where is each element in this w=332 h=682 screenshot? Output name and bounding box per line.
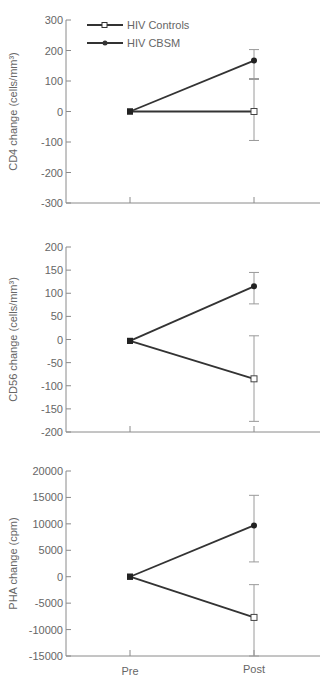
y-tick-label: 0 xyxy=(57,106,63,118)
y-tick-label: 300 xyxy=(45,14,63,26)
y-tick-label: -300 xyxy=(41,197,63,209)
y-tick-label: 150 xyxy=(45,264,63,276)
y-tick-label: 15000 xyxy=(32,491,63,503)
legend-item-hiv-controls: HIV Controls xyxy=(87,19,190,31)
y-tick-label: -150 xyxy=(41,403,63,415)
y-tick-label: -100 xyxy=(41,136,63,148)
filled-circle-marker-icon xyxy=(251,283,257,289)
y-tick-label: 200 xyxy=(45,241,63,253)
x-tick-label-post: Post xyxy=(243,663,265,675)
series-line xyxy=(130,286,254,341)
y-tick-label: -15000 xyxy=(29,650,63,662)
y-tick-label: 10000 xyxy=(32,518,63,530)
y-tick-label: -200 xyxy=(41,167,63,179)
series-hiv-controls xyxy=(127,336,259,422)
series-hiv-controls xyxy=(127,574,259,656)
filled-circle-marker-icon xyxy=(251,522,257,528)
y-tick-label: -50 xyxy=(47,357,63,369)
chart-canvas: 3002001000-100-200-300CD4 change (cells/… xyxy=(0,0,332,682)
y-tick-label: -200 xyxy=(41,426,63,438)
legend: HIV Controls HIV CBSM xyxy=(87,19,190,49)
y-tick-label: 100 xyxy=(45,75,63,87)
series-hiv-cbsm xyxy=(127,495,259,579)
series-hiv-cbsm xyxy=(127,272,259,343)
open-square-marker-icon xyxy=(251,614,257,620)
y-tick-label: 100 xyxy=(45,287,63,299)
pre-marker-icon xyxy=(127,574,133,580)
y-axis-label: PHA change (cpm) xyxy=(7,517,19,609)
pha-change-chart: 20000150001000050000-5000-10000-15000Pre… xyxy=(7,465,320,677)
x-tick-label-pre: Pre xyxy=(121,665,138,677)
legend-label-cbsm: HIV CBSM xyxy=(127,37,180,49)
y-axis-label: CD4 change (cells/mm³) xyxy=(7,52,19,171)
pre-marker-icon xyxy=(127,338,133,344)
series-line xyxy=(130,341,254,379)
y-tick-label: 5000 xyxy=(39,544,63,556)
open-square-marker-icon xyxy=(251,109,257,115)
legend-item-hiv-cbsm: HIV CBSM xyxy=(87,37,180,49)
series-hiv-cbsm xyxy=(127,50,259,115)
y-tick-label: 200 xyxy=(45,45,63,57)
y-tick-label: -100 xyxy=(41,380,63,392)
figure: 3002001000-100-200-300CD4 change (cells/… xyxy=(0,0,332,682)
open-square-marker-icon xyxy=(251,376,257,382)
pre-marker-icon xyxy=(127,109,133,115)
series-hiv-controls xyxy=(127,79,259,141)
y-tick-label: 0 xyxy=(57,334,63,346)
filled-circle-marker-icon xyxy=(251,58,257,64)
legend-label-controls: HIV Controls xyxy=(127,19,190,31)
y-tick-label: 50 xyxy=(51,310,63,322)
cd56-change-chart: 200150100500-50-100-150-200CD56 change (… xyxy=(7,241,320,438)
series-line xyxy=(130,525,254,576)
y-tick-label: 0 xyxy=(57,571,63,583)
y-tick-label: -5000 xyxy=(35,597,63,609)
y-tick-label: 20000 xyxy=(32,465,63,477)
series-line xyxy=(130,61,254,112)
y-axis-label: CD56 change (cells/mm³) xyxy=(7,277,19,402)
y-tick-label: -10000 xyxy=(29,624,63,636)
filled-circle-marker-icon xyxy=(103,41,108,46)
open-square-marker-icon xyxy=(102,23,107,28)
series-line xyxy=(130,577,254,618)
